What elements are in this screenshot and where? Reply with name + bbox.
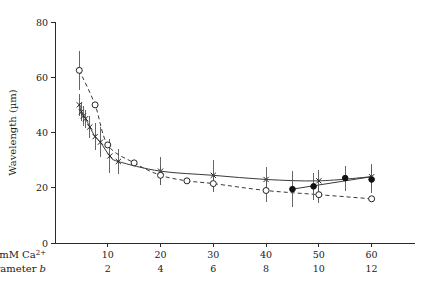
y-tick-label: 20 [36,182,48,193]
x-tick-label-parameter: 6 [210,263,216,274]
x-tick-label-parameter: 8 [263,263,269,274]
y-tick-label: 40 [36,127,48,138]
x-tick-label-mm: 20 [154,249,166,260]
marker-open-circle [210,181,216,187]
series-line [79,70,371,198]
marker-open-circle [316,192,322,198]
series-solid-cross-series [77,94,375,192]
x-tick-label-parameter: 2 [105,263,111,274]
x-axis-row-label-parameter: Parameter b [0,263,46,274]
marker-open-circle [92,102,98,108]
series-filled-circle-series [290,166,375,207]
chart-labels: 02040608010220430640850106012Wavelength … [0,17,378,275]
chart-figure: 02040608010220430640850106012Wavelength … [0,0,424,292]
x-tick-label-mm: 50 [313,249,325,260]
y-tick-label: 80 [36,17,48,28]
x-tick-label-parameter: 4 [158,263,164,274]
x-tick-label-mm: 30 [207,249,219,260]
marker-filled-circle [311,184,317,190]
x-axis-row-label-mm: mM Ca2+ [0,249,46,260]
marker-open-circle [263,188,269,194]
x-tick-label-parameter: 10 [313,263,325,274]
marker-open-circle [76,67,82,73]
chart-axes [51,22,415,247]
series-line [79,105,371,181]
marker-open-circle [184,178,190,184]
marker-filled-circle [369,177,375,183]
x-tick-label-mm: 60 [366,249,378,260]
y-tick-label: 0 [42,238,48,249]
wavelength-vs-calcium-chart: 02040608010220430640850106012Wavelength … [0,0,424,292]
filled-series-connector [292,177,371,189]
x-tick-label-mm: 10 [102,249,114,260]
x-tick-label-parameter: 12 [366,263,378,274]
marker-open-circle [105,142,111,148]
marker-open-circle [131,160,137,166]
y-axis-title: Wavelength (µm) [7,89,18,175]
marker-filled-circle [342,175,348,181]
chart-series [76,51,374,207]
marker-open-circle [158,172,164,178]
x-tick-label-mm: 40 [260,249,272,260]
y-tick-label: 60 [36,72,48,83]
marker-filled-circle [290,186,296,192]
marker-open-circle [369,196,375,202]
